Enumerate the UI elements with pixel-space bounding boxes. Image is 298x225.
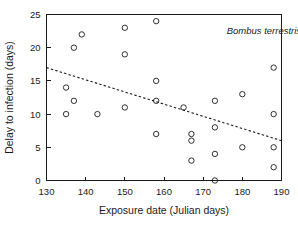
data-point — [71, 98, 76, 103]
data-point — [153, 131, 158, 136]
data-point — [122, 105, 127, 110]
scatter-plot-figure: 130140150160170180190 0510152025 Exposur… — [0, 0, 298, 225]
x-tick-label-150: 150 — [117, 186, 133, 197]
data-point — [189, 138, 194, 143]
regression-trend-line — [47, 68, 282, 141]
data-point — [153, 78, 158, 83]
y-tick-label-15: 15 — [30, 75, 41, 86]
data-point — [153, 18, 158, 23]
data-point — [95, 111, 100, 116]
x-axis-ticks: 130140150160170180190 — [39, 177, 290, 197]
data-point — [240, 91, 245, 96]
axis-frame — [47, 15, 282, 181]
data-point — [271, 165, 276, 170]
x-tick-label-160: 160 — [156, 186, 172, 197]
data-point — [122, 52, 127, 57]
data-point — [71, 45, 76, 50]
y-tick-label-10: 10 — [30, 109, 41, 120]
data-point — [189, 131, 194, 136]
x-axis-title: Exposure date (Julian days) — [99, 204, 229, 216]
data-point — [181, 105, 186, 110]
data-point — [63, 85, 68, 90]
data-point — [122, 25, 127, 30]
x-tick-label-170: 170 — [195, 186, 211, 197]
data-point — [63, 111, 68, 116]
data-points — [63, 18, 276, 183]
y-axis-ticks: 0510152025 — [30, 9, 51, 186]
y-tick-label-5: 5 — [35, 142, 40, 153]
y-tick-label-25: 25 — [30, 9, 41, 20]
data-point — [240, 145, 245, 150]
trend-line — [47, 68, 282, 141]
species-annotation: Bombus terrestris — [227, 25, 298, 36]
x-tick-label-130: 130 — [39, 186, 55, 197]
data-point — [212, 98, 217, 103]
data-point — [271, 145, 276, 150]
plot-canvas: 130140150160170180190 0510152025 Exposur… — [0, 0, 298, 225]
y-tick-label-0: 0 — [35, 175, 40, 186]
x-tick-label-190: 190 — [274, 186, 290, 197]
data-point — [212, 125, 217, 130]
x-tick-label-140: 140 — [78, 186, 94, 197]
x-tick-label-180: 180 — [234, 186, 250, 197]
plot-frame — [47, 15, 282, 181]
data-point — [189, 158, 194, 163]
data-point — [271, 65, 276, 70]
y-tick-label-20: 20 — [30, 42, 41, 53]
y-axis-title: Delay to infection (days) — [3, 41, 15, 154]
data-point — [271, 111, 276, 116]
data-point — [79, 32, 84, 37]
data-point — [212, 151, 217, 156]
